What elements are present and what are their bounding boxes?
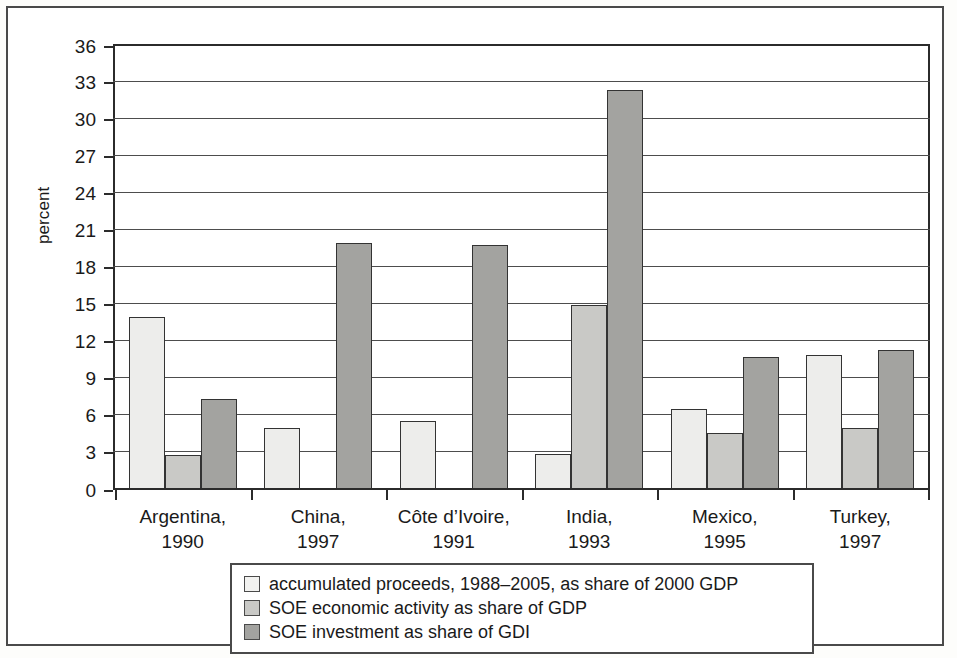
y-axis-title: percent bbox=[34, 200, 54, 222]
x-axis-category-label: Côte d’Ivoire,1991 bbox=[386, 504, 522, 554]
bar bbox=[571, 305, 607, 488]
x-axis-tick bbox=[115, 488, 251, 500]
category-name: Mexico, bbox=[692, 506, 757, 527]
bar bbox=[842, 428, 878, 488]
bar bbox=[201, 399, 237, 488]
plot-area: 3633302724211815129630 bbox=[113, 44, 930, 488]
x-axis-category-label: India,1993 bbox=[522, 504, 658, 554]
bar-groups bbox=[115, 44, 928, 488]
y-axis-tick-0: 0 bbox=[104, 490, 113, 492]
bar-group bbox=[793, 44, 929, 488]
x-axis-labels: Argentina,1990China,1997Côte d’Ivoire,19… bbox=[115, 504, 928, 554]
bar bbox=[535, 454, 571, 488]
x-axis-tick bbox=[386, 488, 522, 500]
y-axis-tick-label: 0 bbox=[85, 481, 96, 501]
y-axis-tick-label: 12 bbox=[75, 332, 96, 352]
category-year: 1991 bbox=[386, 529, 522, 554]
y-axis-title-text: percent bbox=[34, 222, 54, 244]
legend-item: SOE economic activity as share of GDP bbox=[244, 596, 802, 620]
y-axis-tick-21: 21 bbox=[104, 230, 113, 232]
x-axis-ticks bbox=[115, 488, 928, 500]
x-axis-tick bbox=[251, 488, 387, 500]
y-axis-tick-label: 18 bbox=[75, 258, 96, 278]
y-axis-tick-12: 12 bbox=[104, 341, 113, 343]
legend-item: accumulated proceeds, 1988–2005, as shar… bbox=[244, 572, 802, 596]
category-name: Argentina, bbox=[139, 506, 226, 527]
x-axis-tick bbox=[657, 488, 793, 500]
category-name: Côte d’Ivoire, bbox=[398, 506, 510, 527]
legend-items: accumulated proceeds, 1988–2005, as shar… bbox=[244, 572, 802, 644]
y-axis-tick-label: 36 bbox=[75, 37, 96, 57]
category-year: 1990 bbox=[115, 529, 251, 554]
bar-group bbox=[657, 44, 793, 488]
legend-item: SOE investment as share of GDI bbox=[244, 620, 802, 644]
bar-group bbox=[522, 44, 658, 488]
y-axis-tick-label: 15 bbox=[75, 295, 96, 315]
category-name: Turkey, bbox=[830, 506, 891, 527]
category-name: China, bbox=[291, 506, 346, 527]
category-year: 1997 bbox=[793, 529, 929, 554]
bar bbox=[743, 357, 779, 488]
bar bbox=[607, 90, 643, 488]
y-axis-tick-33: 33 bbox=[104, 82, 113, 84]
y-axis-tick-30: 30 bbox=[104, 119, 113, 121]
bar bbox=[472, 245, 508, 488]
legend-box: accumulated proceeds, 1988–2005, as shar… bbox=[230, 563, 814, 654]
scanned-page-frame: percent 3633302724211815129630 Argentina… bbox=[6, 6, 944, 646]
bar bbox=[336, 243, 372, 488]
medium-gray-swatch bbox=[244, 600, 260, 616]
figure-page: percent 3633302724211815129630 Argentina… bbox=[0, 0, 957, 658]
y-axis-tick-27: 27 bbox=[104, 156, 113, 158]
bar bbox=[707, 433, 743, 489]
y-axis-tick-3: 3 bbox=[104, 452, 113, 454]
y-axis-tick-label: 21 bbox=[75, 221, 96, 241]
x-axis-tick bbox=[522, 488, 658, 500]
bar bbox=[129, 317, 165, 488]
bar-group bbox=[251, 44, 387, 488]
bar bbox=[264, 428, 300, 488]
y-axis-tick-label: 27 bbox=[75, 147, 96, 167]
x-axis-category-label: Mexico,1995 bbox=[657, 504, 793, 554]
bar-group bbox=[386, 44, 522, 488]
category-year: 1997 bbox=[251, 529, 387, 554]
x-axis-tick bbox=[793, 488, 929, 500]
category-year: 1995 bbox=[657, 529, 793, 554]
y-axis-tick-label: 30 bbox=[75, 110, 96, 130]
bar bbox=[878, 350, 914, 488]
x-axis-category-label: China,1997 bbox=[251, 504, 387, 554]
bar bbox=[165, 455, 201, 488]
y-axis-tick-18: 18 bbox=[104, 267, 113, 269]
legend-label: SOE economic activity as share of GDP bbox=[269, 597, 587, 619]
y-axis-tick-label: 33 bbox=[75, 73, 96, 93]
light-gray-swatch bbox=[244, 576, 260, 592]
bar bbox=[806, 355, 842, 488]
bar bbox=[400, 421, 436, 488]
y-axis-tick-15: 15 bbox=[104, 304, 113, 306]
y-axis-tick-6: 6 bbox=[104, 415, 113, 417]
y-axis-tick-label: 9 bbox=[85, 369, 96, 389]
y-axis-tick-label: 6 bbox=[85, 406, 96, 426]
x-axis-category-label: Argentina,1990 bbox=[115, 504, 251, 554]
legend-label: SOE investment as share of GDI bbox=[269, 621, 530, 643]
x-axis-category-label: Turkey,1997 bbox=[793, 504, 929, 554]
legend-label: accumulated proceeds, 1988–2005, as shar… bbox=[269, 573, 738, 595]
y-axis-tick-label: 3 bbox=[85, 443, 96, 463]
dark-gray-swatch bbox=[244, 624, 260, 640]
bar-group bbox=[115, 44, 251, 488]
category-year: 1993 bbox=[522, 529, 658, 554]
y-axis-tick-label: 24 bbox=[75, 184, 96, 204]
x-axis: Argentina,1990China,1997Côte d’Ivoire,19… bbox=[113, 488, 930, 558]
category-name: India, bbox=[566, 506, 612, 527]
y-axis-tick-36: 36 bbox=[104, 46, 113, 48]
y-axis-tick-9: 9 bbox=[104, 378, 113, 380]
y-axis-tick-24: 24 bbox=[104, 193, 113, 195]
bar-chart-figure: percent 3633302724211815129630 Argentina… bbox=[8, 8, 942, 644]
bar bbox=[671, 409, 707, 488]
